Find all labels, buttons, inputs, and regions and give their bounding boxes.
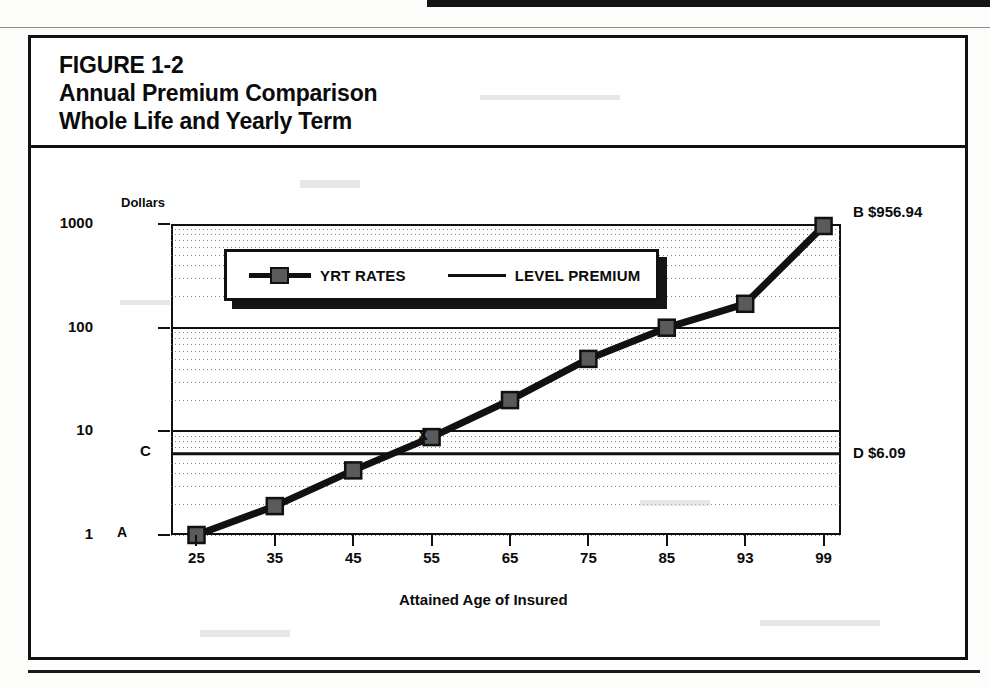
y-axis-tick-label: 1000: [60, 214, 93, 231]
figure-header: FIGURE 1-2 Annual Premium Comparison Who…: [31, 38, 965, 148]
x-axis-tick-label: 25: [188, 549, 205, 566]
legend-swatch-line-icon: [448, 267, 506, 283]
chart-area: Dollars Attained Age of Insured 11010010…: [31, 151, 965, 657]
scan-speck: [480, 95, 620, 100]
data-point-marker: [737, 296, 753, 312]
x-axis-tick-mark: [744, 535, 746, 546]
y-axis-tick-label: 10: [76, 421, 93, 438]
plot-area: YRT RATES LEVEL PREMIUM: [171, 224, 841, 535]
x-axis-tick-label: 99: [815, 549, 832, 566]
scan-speck: [640, 500, 710, 506]
scan-artifact-top-band: [427, 0, 990, 7]
annotation-c: C: [140, 442, 151, 459]
legend-swatch-square-line-icon: [249, 267, 311, 283]
x-axis-tick-label: 75: [580, 549, 597, 566]
y-axis-tick-mark: [158, 327, 170, 329]
x-axis-tick-label: 65: [502, 549, 519, 566]
scan-artifact-bottom-rule: [28, 670, 980, 673]
data-point-marker: [345, 462, 361, 478]
x-axis-tick-mark: [823, 535, 825, 546]
legend-label-yrt-rates: YRT RATES: [320, 267, 406, 284]
figure-title-line-3: Whole Life and Yearly Term: [59, 107, 965, 135]
y-axis-title: Dollars: [121, 195, 165, 210]
x-axis-tick-mark: [352, 535, 354, 546]
data-point-marker: [816, 218, 832, 234]
x-axis-tick-label: 45: [345, 549, 362, 566]
scan-speck: [200, 630, 290, 637]
data-point-marker: [502, 392, 518, 408]
x-axis-tick-label: 93: [737, 549, 754, 566]
x-axis-tick-mark: [509, 535, 511, 546]
x-axis-tick-mark: [431, 535, 433, 546]
legend-box: YRT RATES LEVEL PREMIUM: [224, 249, 659, 301]
legend-item-level-premium[interactable]: LEVEL PREMIUM: [448, 267, 641, 284]
scan-artifact-top-rule: [0, 27, 990, 28]
annotation-x-crossover: X: [418, 426, 428, 443]
x-axis-tick-label: 35: [267, 549, 284, 566]
legend-label-level-premium: LEVEL PREMIUM: [515, 267, 641, 284]
scan-speck: [120, 300, 170, 305]
chart-legend: YRT RATES LEVEL PREMIUM: [224, 249, 659, 301]
y-axis-tick-mark: [158, 223, 170, 225]
x-axis-title: Attained Age of Insured: [399, 591, 568, 608]
x-axis-tick-label: 85: [658, 549, 675, 566]
x-axis-tick-mark: [274, 535, 276, 546]
y-axis-tick-mark: [158, 430, 170, 432]
scan-speck: [760, 620, 880, 626]
y-axis-tick-label: 1: [85, 525, 93, 542]
data-point-marker: [580, 351, 596, 367]
annotation-b: B $956.94: [853, 203, 922, 220]
legend-item-yrt-rates[interactable]: YRT RATES: [249, 267, 406, 284]
x-axis-tick-label: 55: [423, 549, 440, 566]
gridline: [171, 535, 841, 536]
x-axis-tick-mark: [587, 535, 589, 546]
annotation-d: D $6.09: [853, 444, 906, 461]
x-axis-tick-mark: [666, 535, 668, 546]
figure-title-line-2: Annual Premium Comparison: [59, 79, 965, 107]
figure-title-line-1: FIGURE 1-2: [59, 51, 965, 79]
figure-card: FIGURE 1-2 Annual Premium Comparison Who…: [28, 35, 968, 660]
x-axis-tick-mark: [195, 535, 197, 546]
data-point-marker: [267, 498, 283, 514]
y-axis-tick-label: 100: [68, 318, 93, 335]
annotation-a: A: [117, 524, 127, 540]
data-point-marker: [659, 320, 675, 336]
y-axis-tick-mark: [158, 534, 170, 536]
scan-speck: [300, 180, 360, 188]
